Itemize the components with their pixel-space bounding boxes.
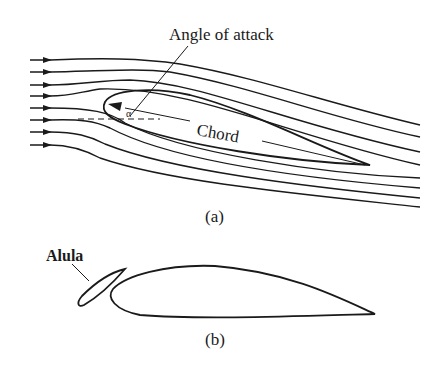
chord-arrow-icon — [108, 102, 122, 111]
flow-arrows — [43, 57, 52, 148]
figure-a: α Angle of attack Chord (a) — [30, 25, 420, 226]
airfoil-b — [111, 266, 375, 318]
alula-shape — [78, 269, 125, 306]
alula-leader-line — [72, 264, 89, 281]
arrow-icon — [43, 117, 52, 123]
label-alula: Alula — [46, 247, 83, 264]
label-chord: Chord — [195, 120, 241, 146]
label-angle-of-attack: Angle of attack — [169, 25, 274, 44]
arrow-icon — [43, 142, 52, 148]
arrow-icon — [43, 69, 52, 75]
streamline-1 — [30, 59, 420, 125]
arrow-icon — [43, 57, 52, 63]
caption-b: (b) — [205, 330, 225, 349]
figure-b: Alula (b) — [46, 247, 375, 349]
arrow-icon — [43, 93, 52, 99]
arrow-icon — [43, 105, 52, 111]
airfoil-diagram: α Angle of attack Chord (a) Alula (b) — [0, 0, 431, 374]
caption-a: (a) — [205, 207, 224, 226]
angle-symbol: α — [126, 108, 132, 119]
arrow-icon — [43, 129, 52, 135]
arrow-icon — [43, 82, 52, 88]
